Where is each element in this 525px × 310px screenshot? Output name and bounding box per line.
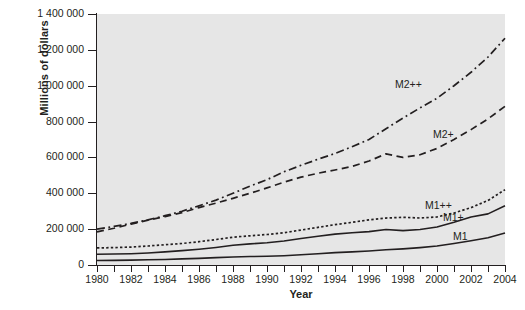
series-label-M2plusplus: M2++	[395, 78, 422, 90]
series-label-M1: M1	[453, 230, 468, 242]
series-label-M1plus: M1+	[443, 211, 464, 223]
series-layer	[0, 0, 525, 310]
series-label-M1plusplus: M1++	[425, 199, 452, 211]
series-label-M2plus: M2+	[433, 128, 454, 140]
series-line-M1	[97, 233, 505, 260]
line-chart: Millions of dollars 0200 000400 000600 0…	[0, 0, 525, 310]
x-axis-title: Year	[97, 288, 505, 300]
